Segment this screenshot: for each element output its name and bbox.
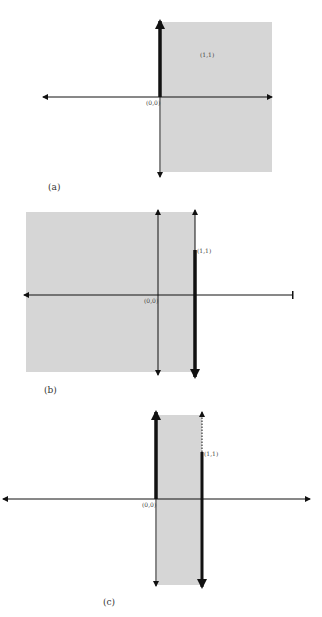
panel-b: (0,0) (1,1) (b) — [24, 210, 293, 395]
point-label: (1,1) — [200, 51, 214, 58]
panel-a: (0,0) (1,1) (a) — [43, 21, 272, 192]
origin-label: (0,0) — [142, 501, 156, 508]
figure-canvas: (0,0) (1,1) (a) (0,0) (1,1) (b) (0,0) (1… — [0, 0, 322, 617]
shaded-region — [157, 415, 202, 585]
shaded-region — [26, 212, 195, 372]
origin-label: (0,0) — [146, 99, 160, 106]
point-label: (1,1) — [204, 450, 218, 457]
panel-c: (0,0) (1,1) (c) — [3, 412, 310, 607]
caption-a: (a) — [48, 182, 60, 192]
caption-b: (b) — [44, 385, 57, 395]
point-label: (1,1) — [197, 247, 211, 254]
caption-c: (c) — [103, 597, 115, 607]
origin-label: (0,0) — [144, 297, 158, 304]
